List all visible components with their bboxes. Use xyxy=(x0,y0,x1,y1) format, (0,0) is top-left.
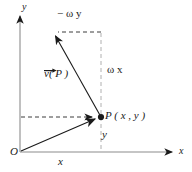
horizontal-component-label: − ω y xyxy=(57,8,81,19)
x-segment-label: x xyxy=(58,156,63,167)
vector-overbar-arrow-icon xyxy=(44,68,57,73)
diagram-canvas xyxy=(0,0,192,172)
point-p-label: P ( x , y ) xyxy=(105,110,145,121)
vertical-component-label: ω x xyxy=(107,64,123,75)
point-p-marker xyxy=(98,114,104,120)
x-axis-label: x xyxy=(179,146,183,156)
position-vector-arrow xyxy=(21,119,95,151)
velocity-symbol-wrap: v xyxy=(44,68,49,79)
y-segment-label: y xyxy=(102,129,107,140)
origin-label: O xyxy=(10,146,18,157)
vector-diagram-figure: y x O − ω y ω x P ( x , y ) y x v ( P ) xyxy=(0,0,192,172)
velocity-vector-label: v ( P ) xyxy=(44,68,68,79)
y-axis-label: y xyxy=(22,2,26,12)
